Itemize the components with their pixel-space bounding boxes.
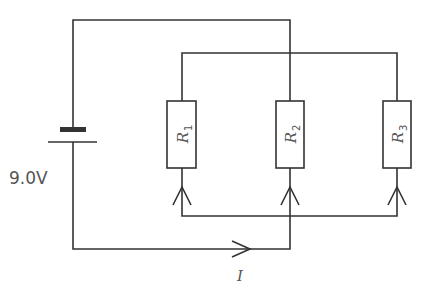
current-label: I [236, 267, 244, 285]
battery-voltage-label: 9.0V [9, 168, 48, 188]
resistor-r3-subscript: 3 [398, 125, 409, 131]
battery-icon [48, 127, 97, 142]
resistor-r1-subscript: 1 [183, 125, 194, 131]
resistor-r2-subscript: 2 [291, 125, 302, 131]
circuit-diagram: 9.0V R1 R2 R3 I [0, 0, 437, 302]
resistor-r1: R1 [167, 101, 196, 168]
resistor-r3-name: R [389, 132, 407, 144]
resistor-r2-name: R [282, 132, 300, 144]
resistor-r1-name: R [174, 132, 192, 144]
resistor-r3: R3 [383, 101, 411, 168]
resistor-r2: R2 [276, 101, 304, 168]
